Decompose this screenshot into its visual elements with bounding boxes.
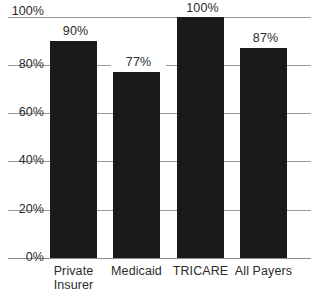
bar-private-insurer: [50, 41, 97, 258]
bar-all-payers: [240, 48, 287, 258]
bar-medicaid: [113, 72, 160, 258]
y-axis-tick-100: 100%: [0, 5, 44, 18]
x-axis-label-line-2: Insurer: [44, 278, 103, 292]
x-axis-label-line-1: All Payers: [232, 264, 295, 278]
x-axis-label-all-payers: All Payers: [232, 264, 295, 278]
x-axis-label-line-1: TRICARE: [169, 264, 232, 278]
y-axis-tick-60: 60%: [0, 106, 44, 119]
bar-value-tricare: 100%: [175, 2, 230, 15]
bar-value-private-insurer: 90%: [48, 25, 103, 38]
x-axis-label-private-insurer: Private Insurer: [44, 264, 103, 292]
bar-value-all-payers: 87%: [238, 32, 293, 45]
y-axis-tick-40: 40%: [0, 154, 44, 167]
x-axis-label-medicaid: Medicaid: [105, 264, 168, 278]
x-axis-label-line-1: Private: [44, 264, 103, 278]
gridline-100: [8, 17, 311, 18]
axis-baseline: [8, 258, 311, 259]
y-axis-tick-20: 20%: [0, 203, 44, 216]
bar-chart: 100% 80% 60% 40% 20% 0% 90% 77% 100% 87%…: [0, 0, 319, 297]
y-axis-tick-0: 0%: [0, 251, 44, 264]
x-axis-label-tricare: TRICARE: [169, 264, 232, 278]
y-axis-tick-80: 80%: [0, 58, 44, 71]
bar-tricare: [177, 17, 224, 258]
x-axis-label-line-1: Medicaid: [105, 264, 168, 278]
bar-value-medicaid: 77%: [111, 56, 166, 69]
